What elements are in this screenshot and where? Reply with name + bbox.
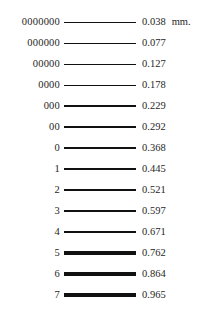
gauge-label: 3 bbox=[0, 203, 60, 219]
gauge-thickness-chart: 00000000.038mm.0000000.077000000.1270000… bbox=[0, 0, 205, 309]
table-row: 20.521 bbox=[0, 182, 205, 198]
thickness-value: 0.671 bbox=[142, 224, 166, 240]
gauge-label: 4 bbox=[0, 224, 60, 240]
thickness-value: 0.038mm. bbox=[142, 14, 191, 30]
thickness-rule bbox=[64, 231, 136, 234]
gauge-label: 00 bbox=[0, 119, 60, 135]
table-row: 50.762 bbox=[0, 245, 205, 261]
thickness-rule-cell bbox=[64, 56, 136, 72]
thickness-number: 0.762 bbox=[142, 247, 166, 258]
thickness-number: 0.229 bbox=[142, 100, 166, 111]
table-row: 30.597 bbox=[0, 203, 205, 219]
thickness-number: 0.368 bbox=[142, 142, 166, 153]
gauge-label: 0000000 bbox=[0, 14, 60, 30]
thickness-value: 0.445 bbox=[142, 161, 166, 177]
thickness-value: 0.292 bbox=[142, 119, 166, 135]
thickness-rule-cell bbox=[64, 98, 136, 114]
gauge-label: 1 bbox=[0, 161, 60, 177]
thickness-rule bbox=[64, 105, 136, 106]
table-row: 00.368 bbox=[0, 140, 205, 156]
thickness-number: 0.127 bbox=[142, 58, 166, 69]
gauge-label: 00000 bbox=[0, 56, 60, 72]
thickness-rule-cell bbox=[64, 245, 136, 261]
thickness-rule bbox=[64, 272, 136, 276]
table-row: 00000000.038mm. bbox=[0, 14, 205, 30]
thickness-rule-cell bbox=[64, 77, 136, 93]
thickness-rule-cell bbox=[64, 119, 136, 135]
table-row: 00000.178 bbox=[0, 77, 205, 93]
thickness-rule-cell bbox=[64, 287, 136, 303]
thickness-number: 0.864 bbox=[142, 268, 166, 279]
thickness-rule bbox=[64, 43, 136, 44]
thickness-rule-cell bbox=[64, 266, 136, 282]
thickness-number: 0.671 bbox=[142, 226, 166, 237]
gauge-label: 7 bbox=[0, 287, 60, 303]
thickness-value: 0.762 bbox=[142, 245, 166, 261]
gauge-label: 000 bbox=[0, 98, 60, 114]
thickness-rule bbox=[64, 85, 136, 86]
thickness-rule-cell bbox=[64, 14, 136, 30]
thickness-rule bbox=[64, 168, 136, 170]
table-row: 0000.229 bbox=[0, 98, 205, 114]
thickness-rule-cell bbox=[64, 161, 136, 177]
gauge-label: 0000 bbox=[0, 77, 60, 93]
thickness-rule bbox=[64, 22, 136, 23]
thickness-rule-cell bbox=[64, 140, 136, 156]
thickness-rule-cell bbox=[64, 182, 136, 198]
table-row: 000000.127 bbox=[0, 56, 205, 72]
thickness-rule bbox=[64, 189, 136, 191]
thickness-value: 0.521 bbox=[142, 182, 166, 198]
thickness-number: 0.038 bbox=[142, 16, 166, 27]
thickness-rule-cell bbox=[64, 203, 136, 219]
thickness-number: 0.597 bbox=[142, 205, 166, 216]
thickness-value: 0.965 bbox=[142, 287, 166, 303]
table-row: 10.445 bbox=[0, 161, 205, 177]
thickness-number: 0.965 bbox=[142, 289, 166, 300]
thickness-value: 0.597 bbox=[142, 203, 166, 219]
thickness-value: 0.077 bbox=[142, 35, 166, 51]
thickness-number: 0.292 bbox=[142, 121, 166, 132]
table-row: 60.864 bbox=[0, 266, 205, 282]
table-row: 70.965 bbox=[0, 287, 205, 303]
table-row: 40.671 bbox=[0, 224, 205, 240]
gauge-label: 0 bbox=[0, 140, 60, 156]
table-row: 000.292 bbox=[0, 119, 205, 135]
gauge-label: 6 bbox=[0, 266, 60, 282]
thickness-number: 0.521 bbox=[142, 184, 166, 195]
thickness-number: 0.178 bbox=[142, 79, 166, 90]
thickness-rule-cell bbox=[64, 224, 136, 240]
thickness-rule bbox=[64, 210, 136, 212]
thickness-number: 0.077 bbox=[142, 37, 166, 48]
thickness-value: 0.229 bbox=[142, 98, 166, 114]
gauge-label: 2 bbox=[0, 182, 60, 198]
gauge-label: 000000 bbox=[0, 35, 60, 51]
thickness-rule bbox=[64, 126, 136, 127]
thickness-number: 0.445 bbox=[142, 163, 166, 174]
thickness-rule-cell bbox=[64, 35, 136, 51]
thickness-value: 0.864 bbox=[142, 266, 166, 282]
thickness-rule bbox=[64, 64, 136, 65]
thickness-value: 0.368 bbox=[142, 140, 166, 156]
thickness-value: 0.127 bbox=[142, 56, 166, 72]
unit-label: mm. bbox=[172, 16, 191, 27]
gauge-label: 5 bbox=[0, 245, 60, 261]
thickness-rule bbox=[64, 147, 136, 149]
table-row: 0000000.077 bbox=[0, 35, 205, 51]
thickness-rule bbox=[64, 251, 136, 254]
thickness-value: 0.178 bbox=[142, 77, 166, 93]
thickness-rule bbox=[64, 293, 136, 297]
